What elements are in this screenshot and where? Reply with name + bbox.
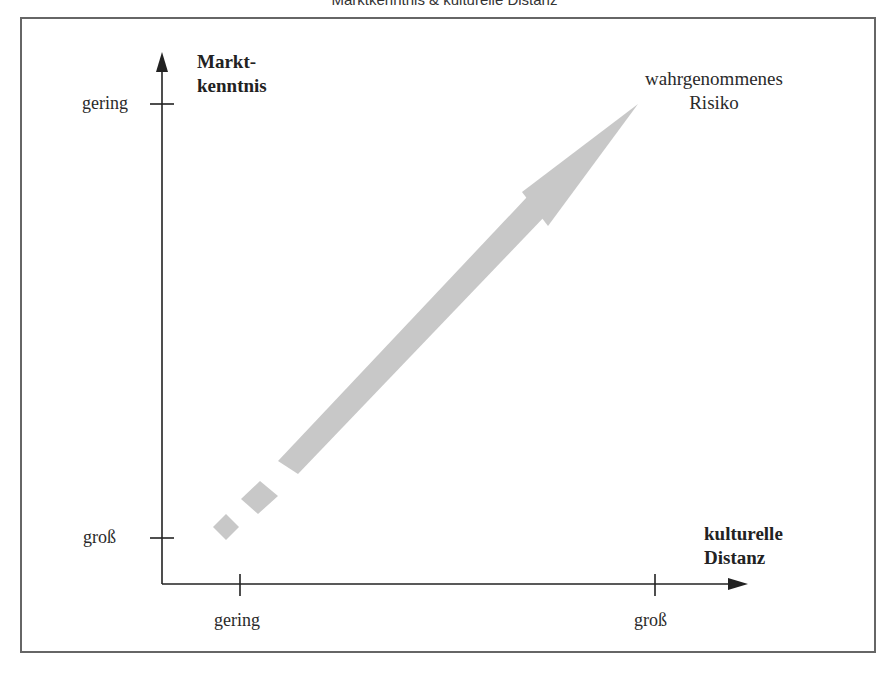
arrow-dash-1 <box>213 514 239 540</box>
x-axis-title-line2: Distanz <box>704 546 783 570</box>
arrow-label-line1: wahrgenommenes <box>614 67 814 91</box>
arrow-head <box>522 104 638 226</box>
y-tick-label-gross: groß <box>83 526 116 549</box>
x-axis-title: kulturelle Distanz <box>704 522 783 570</box>
arrow-dash-3 <box>278 197 547 474</box>
arrow-label-line2: Risiko <box>614 91 814 115</box>
arrow-dash-2 <box>241 481 278 514</box>
x-tick-label-gross: groß <box>634 609 667 632</box>
y-axis-title: Markt- kenntnis <box>197 50 267 98</box>
x-tick-label-gering: gering <box>214 609 260 632</box>
risk-arrow <box>213 104 638 540</box>
x-axis-arrowhead-icon <box>728 578 748 590</box>
x-axis <box>162 574 730 596</box>
y-axis-title-line1: Markt- <box>197 50 267 74</box>
arrow-label: wahrgenommenes Risiko <box>614 67 814 115</box>
x-axis-title-line1: kulturelle <box>704 522 783 546</box>
y-axis-title-line2: kenntnis <box>197 74 267 98</box>
y-tick-label-gering: gering <box>82 92 128 115</box>
y-axis <box>150 70 174 584</box>
y-axis-arrowhead-icon <box>156 52 168 72</box>
